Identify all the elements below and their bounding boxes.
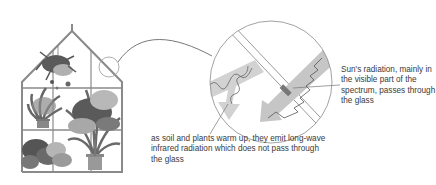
greenhouse [21, 24, 122, 172]
ir-leader-line [210, 104, 228, 134]
bushy-plant [21, 139, 72, 169]
infrared-radiation-label: as soil and plants warm up, they emit lo… [151, 134, 331, 165]
sun-radiation-label: Sun's radiation, mainly in the visible p… [341, 65, 436, 107]
magnified-view [205, 21, 340, 143]
connector-line [118, 40, 212, 63]
hanging-plant [36, 46, 76, 90]
infrared-arrow [205, 60, 264, 120]
magnify-source-circle [99, 57, 119, 77]
palm-plant-left [28, 88, 62, 128]
sun-radiation-arrow [260, 48, 338, 122]
palm-plant-large [66, 90, 120, 170]
